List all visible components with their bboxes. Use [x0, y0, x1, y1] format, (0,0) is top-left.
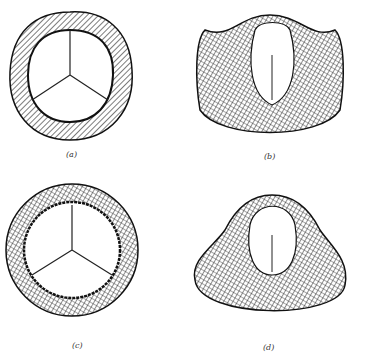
label-a: (a)	[66, 150, 77, 159]
label-b: (b)	[264, 152, 275, 161]
valve-d	[194, 195, 345, 311]
valve-a	[10, 12, 132, 140]
valve-b	[197, 15, 344, 133]
label-d: (d)	[263, 343, 274, 352]
panel-a-drawing	[0, 0, 365, 357]
valve-c	[6, 184, 138, 316]
label-c: (c)	[72, 341, 83, 350]
